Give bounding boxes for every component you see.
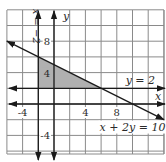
line-label-x-equals-neg-2: x = −2: [31, 9, 42, 44]
y-tick-label: -4: [40, 130, 50, 141]
x-tick-label: 8: [114, 107, 120, 118]
y-tick-label: 8: [44, 36, 50, 47]
x-tick-label: 4: [82, 107, 88, 118]
y-axis-label: y: [62, 10, 70, 23]
x-tick-label: -4: [18, 107, 28, 118]
y-tick-label: 4: [44, 68, 50, 79]
line-label-x-plus-2y-equals-10: x + 2y = 10: [100, 121, 166, 134]
x-axis-label: x: [155, 90, 162, 103]
line-label-y-equals-2: y = 2: [125, 74, 155, 87]
graph: -4 4 8 8 4 -4 x y x = −2 y = 2 x + 2y = …: [0, 0, 166, 162]
